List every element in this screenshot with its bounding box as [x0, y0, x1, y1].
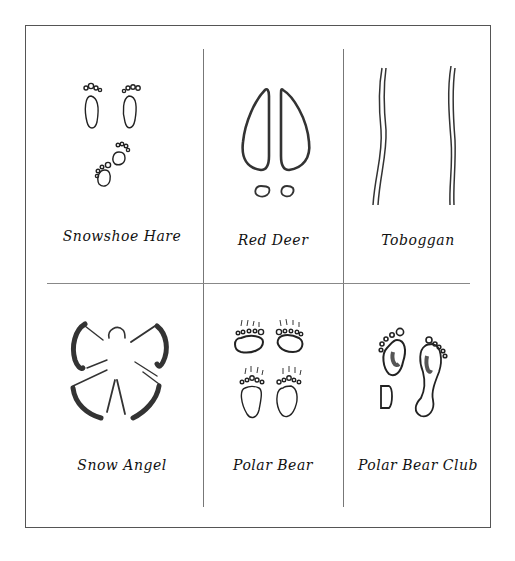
cell-polar-bear: Polar Bear [205, 300, 341, 500]
divider-horizontal [47, 283, 470, 284]
cell-snowshoe-hare: Snowshoe Hare [47, 60, 197, 270]
cell-label: Toboggan [345, 232, 491, 248]
divider-vertical-2 [343, 49, 344, 507]
cell-label: Snowshoe Hare [47, 228, 197, 244]
cell-polar-bear-club: Polar Bear Club [345, 300, 491, 500]
cell-snow-angel: Snow Angel [47, 300, 197, 500]
cell-label: Red Deer [205, 232, 341, 248]
cell-label: Polar Bear Club [345, 457, 491, 473]
cell-toboggan: Toboggan [345, 60, 491, 270]
cell-label: Snow Angel [47, 457, 197, 473]
cell-red-deer: Red Deer [205, 60, 341, 270]
divider-vertical-1 [203, 49, 204, 507]
cell-label: Polar Bear [205, 457, 341, 473]
